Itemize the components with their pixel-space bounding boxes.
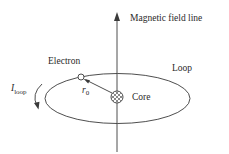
field-arrow-icon [114,12,120,21]
radius-subscript: 0 [86,89,90,97]
electron-label: Electron [48,57,80,67]
current-direction-arrow-icon [34,84,42,110]
core-label: Core [132,93,150,103]
loop-current-label: Iloop [11,84,27,96]
magnetic-field-line [114,12,120,152]
loop-label: Loop [172,64,192,74]
core-icon [108,88,126,106]
magnetic-loop-diagram: Magnetic field line Electron Loop Core r… [0,0,229,154]
magnetic-field-line-label: Magnetic field line [130,14,202,24]
radius-label: r0 [82,86,89,97]
electron-icon [78,74,84,80]
current-subscript: loop [14,88,26,96]
